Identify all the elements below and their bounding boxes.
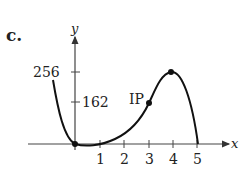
ip-label: IP (129, 91, 144, 107)
x-tick-1: 1 (96, 151, 105, 167)
y-tick-162: 162 (82, 94, 109, 110)
x-tick-3: 3 (145, 151, 154, 167)
x-tick-4: 4 (169, 151, 178, 167)
y-tick-256: 256 (33, 64, 60, 80)
maximum-point (168, 69, 174, 75)
x-axis-label: x (231, 136, 239, 151)
x-tick-5: 5 (193, 151, 202, 167)
inflection-point (146, 100, 152, 106)
y-axis-label: y (70, 21, 79, 36)
origin-point (72, 141, 78, 147)
x-tick-2: 2 (120, 151, 129, 167)
part-label: c. (6, 25, 22, 45)
function-graph: c. x y 1 2 3 4 5 256 162 IP (0, 0, 241, 178)
